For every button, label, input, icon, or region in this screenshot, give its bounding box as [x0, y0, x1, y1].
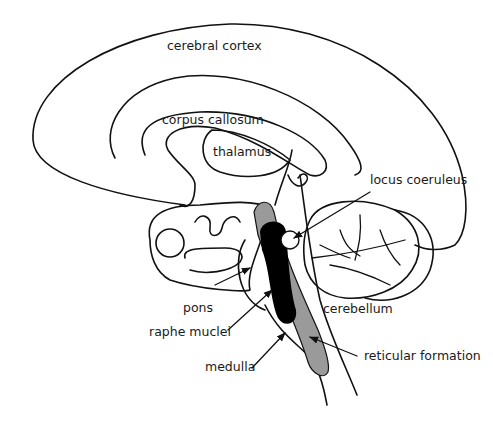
fourth-ventricle — [288, 174, 307, 186]
locus-coeruleus — [281, 231, 299, 249]
pituitary-fold — [195, 216, 240, 235]
cerebellum-folia — [312, 215, 405, 285]
medulla-arrow — [252, 333, 285, 368]
mammillary-body — [156, 229, 184, 257]
label-pons: pons — [183, 300, 213, 315]
pons-region-outline — [149, 202, 270, 290]
cerebellum-lobe — [365, 210, 433, 300]
label-locus-coeruleus: locus coeruleus — [370, 172, 467, 187]
optic-fold — [185, 248, 242, 272]
label-corpus-callosum: corpus callosum — [162, 112, 264, 127]
label-raphe-nuclei: raphe muclei — [149, 324, 231, 339]
label-medulla: medulla — [205, 359, 255, 374]
brain-sagittal-diagram: cerebral cortex corpus callosum thalamus… — [0, 0, 493, 434]
label-reticular-formation: reticular formation — [364, 348, 481, 363]
label-cerebellum: cerebellum — [323, 301, 393, 316]
label-thalamus: thalamus — [213, 144, 271, 159]
cerebellum-outline — [304, 201, 419, 298]
label-cerebral-cortex: cerebral cortex — [167, 38, 262, 53]
